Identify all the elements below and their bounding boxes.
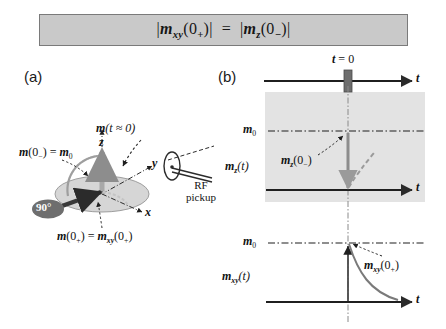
rf-pickup-label: RF pickup <box>186 180 216 203</box>
flip-angle-badge-label: 90° <box>36 202 51 214</box>
mz-axis-label: mz(t) <box>225 160 249 175</box>
pulse-axis-label-t: t <box>416 72 419 85</box>
rf-pickup-label-line1: RF <box>194 179 207 191</box>
rf-pickup-label-line2: pickup <box>186 191 216 203</box>
leader-mxy-0-plus <box>353 244 382 256</box>
rf-pickup-center-dot <box>170 165 174 169</box>
pulse-shade-region <box>265 92 425 202</box>
mxy-y-tick-label: m0 <box>243 235 256 250</box>
panel-b-plots <box>264 70 425 322</box>
label-m-t-approx-zero: m(t ≈ 0) <box>96 122 135 135</box>
axis-label-z: z <box>99 136 104 149</box>
mz-y-tick-label: m0 <box>243 123 256 138</box>
mxy-time-axis-label: t <box>416 293 419 306</box>
mz-curve-label: mz(0−) <box>281 154 312 169</box>
mz-time-axis-label: t <box>416 181 419 194</box>
label-m-zero-minus: m(0−) = m0 <box>19 146 73 161</box>
leader-m-t-approx-0 <box>123 140 141 166</box>
mxy-curve-label: mxy(0+) <box>364 259 399 274</box>
label-m-zero-plus: m(0+) = mxy(0+) <box>57 230 132 245</box>
axis-label-y: y <box>152 157 157 170</box>
pulse-time-label: t = 0 <box>332 53 354 66</box>
figure-root: |mxy(0+)|=|mz(0−)| (a) (b) <box>0 0 446 329</box>
axis-label-x: x <box>145 206 151 219</box>
mxy-axis-label: mxy(t) <box>222 270 250 285</box>
